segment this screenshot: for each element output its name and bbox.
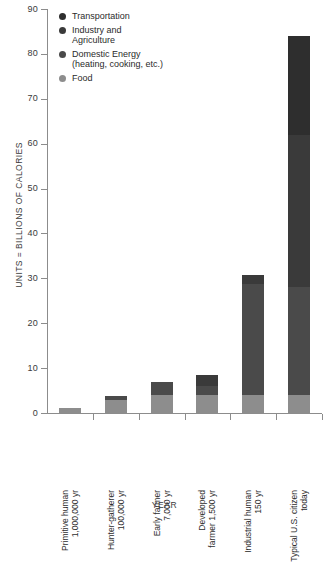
x-axis-label-line2: farmer 1,500 yr bbox=[207, 490, 217, 548]
x-axis-tick bbox=[230, 414, 231, 420]
bar-segment bbox=[288, 135, 310, 288]
x-axis-tick bbox=[93, 414, 94, 420]
chart-legend: TransportationIndustry andAgricultureDom… bbox=[59, 11, 249, 86]
x-axis-tick bbox=[185, 414, 186, 420]
y-axis-label: 50 bbox=[4, 184, 38, 193]
y-axis-label: 20 bbox=[4, 319, 38, 328]
bar-segment bbox=[242, 275, 264, 284]
x-axis-label-line2: 100,000 yr bbox=[116, 490, 126, 550]
x-axis-tick bbox=[139, 414, 140, 420]
bar bbox=[288, 36, 310, 413]
y-axis-label: 70 bbox=[4, 94, 38, 103]
bar-segment bbox=[288, 287, 310, 395]
x-axis-label: Early farmer7,000 yr bbox=[152, 490, 172, 536]
legend-item: Transportation bbox=[59, 11, 249, 22]
legend-label-line2: (heating, cooking, etc.) bbox=[72, 59, 163, 70]
y-axis-tick bbox=[41, 413, 47, 414]
legend-label-line1: Food bbox=[72, 73, 93, 83]
legend-label-line1: Domestic Energy bbox=[72, 49, 141, 59]
y-axis-label: 80 bbox=[4, 49, 38, 58]
x-axis-label-line1: Early farmer bbox=[152, 490, 162, 536]
bar-segment bbox=[105, 400, 127, 413]
legend-label: Transportation bbox=[72, 11, 130, 22]
legend-swatch-icon bbox=[59, 27, 66, 34]
legend-label: Domestic Energy(heating, cooking, etc.) bbox=[72, 49, 163, 70]
bar-segment bbox=[242, 284, 264, 395]
legend-swatch-icon bbox=[59, 75, 66, 82]
x-axis-tick bbox=[322, 414, 323, 420]
x-axis-label-line2: 7,000 yr bbox=[162, 490, 172, 536]
x-axis-label-line1: Developed bbox=[197, 490, 207, 531]
legend-item: Food bbox=[59, 73, 249, 84]
y-axis-label: 30 bbox=[4, 274, 38, 283]
bar-segment bbox=[242, 395, 264, 413]
legend-label: Industry andAgriculture bbox=[72, 25, 122, 46]
legend-item: Domestic Energy(heating, cooking, etc.) bbox=[59, 49, 249, 70]
x-axis-tick bbox=[276, 414, 277, 420]
bar-segment bbox=[196, 375, 218, 386]
bar-segment bbox=[196, 395, 218, 413]
legend-label: Food bbox=[72, 73, 93, 84]
y-axis-label: 60 bbox=[4, 139, 38, 148]
legend-swatch-icon bbox=[59, 51, 66, 58]
bar bbox=[59, 408, 81, 413]
x-axis-label-line1: Hunter-gatherer bbox=[106, 490, 116, 550]
bar-segment bbox=[288, 36, 310, 135]
bar bbox=[242, 275, 264, 413]
legend-swatch-icon bbox=[59, 13, 66, 20]
y-axis-label: 40 bbox=[4, 229, 38, 238]
legend-label-line2: Agriculture bbox=[72, 35, 122, 46]
bar-segment bbox=[196, 386, 218, 395]
bar-segment bbox=[59, 408, 81, 413]
bar bbox=[151, 382, 173, 413]
bar bbox=[196, 375, 218, 413]
legend-label-line1: Transportation bbox=[72, 11, 130, 21]
y-axis-label: 90 bbox=[4, 5, 38, 14]
bar-segment bbox=[151, 382, 173, 395]
x-axis-label: Hunter-gatherer100,000 yr bbox=[106, 490, 126, 550]
y-axis-label: 0 bbox=[4, 409, 38, 418]
bar-segment bbox=[288, 395, 310, 413]
bar-segment bbox=[151, 395, 173, 413]
legend-label-line1: Industry and bbox=[72, 25, 122, 35]
legend-item: Industry andAgriculture bbox=[59, 25, 249, 46]
x-axis-title: YEAR bbox=[0, 500, 329, 510]
y-axis-label: 10 bbox=[4, 364, 38, 373]
bar bbox=[105, 396, 127, 413]
x-axis-label: Developedfarmer 1,500 yr bbox=[197, 490, 217, 548]
